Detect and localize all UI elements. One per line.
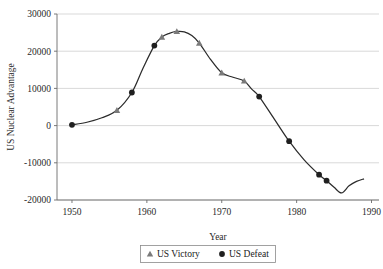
y-tick-labels-group: -20000-100000100002000030000 (24, 9, 51, 205)
x-tick-label: 1980 (287, 207, 306, 217)
y-tick-label: 10000 (27, 84, 51, 94)
x-tick-label: 1970 (212, 207, 231, 217)
chart-figure: -20000-100000100002000030000 19501960197… (0, 0, 383, 269)
y-tick-label: -20000 (24, 195, 51, 205)
legend-circle-icon (219, 251, 225, 257)
us-defeat-markers-group (69, 43, 329, 184)
y-tick-label: -10000 (24, 158, 51, 168)
chart-legend: US VictoryUS Defeat (141, 246, 276, 263)
us-defeat-marker (69, 122, 75, 128)
x-tick-label: 1960 (137, 207, 156, 217)
x-tick-labels-group: 19501960197019801990 (62, 207, 381, 217)
us-defeat-marker (316, 172, 322, 178)
us-defeat-marker (129, 90, 135, 96)
y-tick-label: 0 (46, 121, 51, 131)
legend-label: US Victory (157, 249, 200, 259)
x-tick-label: 1990 (362, 207, 381, 217)
us-victory-marker (241, 78, 248, 84)
us-defeat-marker (324, 178, 330, 184)
y-tick-label: 20000 (27, 47, 51, 57)
y-axis-title: US Nuclear Advantage (6, 63, 16, 151)
x-tick-label: 1950 (62, 207, 81, 217)
us-victory-marker (159, 34, 166, 40)
nuclear-advantage-line-chart: -20000-100000100002000030000 19501960197… (0, 0, 383, 269)
us-victory-markers-group (114, 28, 248, 113)
legend-label: US Defeat (229, 249, 269, 259)
us-defeat-marker (286, 138, 292, 144)
us-defeat-marker (151, 43, 157, 49)
gridlines-group (57, 14, 379, 200)
us-defeat-marker (256, 94, 262, 100)
legend-items-group: US VictoryUS Defeat (147, 249, 269, 259)
legend-triangle-icon (147, 251, 153, 257)
y-tick-label: 30000 (27, 9, 51, 19)
x-axis-title: Year (209, 232, 227, 242)
